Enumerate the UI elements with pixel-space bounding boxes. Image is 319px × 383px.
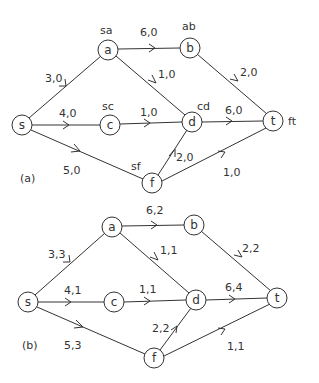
edge-label-f-d: 2,0 <box>176 151 194 164</box>
node-f: f <box>144 348 164 368</box>
diagram-caption-b: (b) <box>22 339 38 352</box>
edge-label-s-a: 3,3 <box>48 248 66 261</box>
svg-text:c: c <box>111 295 118 309</box>
edge-label-a-b: 6,2 <box>146 204 164 217</box>
arrow-icon <box>148 75 156 83</box>
node-tag-sf: sf <box>131 160 142 173</box>
edge-s-f <box>31 130 143 179</box>
edge-label-f-d: 2,2 <box>152 322 170 335</box>
svg-text:d: d <box>188 115 196 129</box>
edge-c-d <box>120 122 182 124</box>
edge-label-s-a: 3,0 <box>45 72 63 85</box>
svg-text:c: c <box>107 118 114 132</box>
flow-network-figure: s a b c d t f sa ab sc cd ft sf 3,0 4,0 … <box>0 0 319 383</box>
node-a: a <box>102 217 122 237</box>
diagram-b: s a b c d t f 3,3 4,1 5,3 6,2 1,1 1,1 2,… <box>18 204 287 368</box>
edge-label-b-t: 2,2 <box>242 242 260 255</box>
edge-label-b-t: 2,0 <box>240 66 258 79</box>
edge-label-c-d: 1,0 <box>140 106 158 119</box>
svg-text:s: s <box>19 118 25 132</box>
svg-text:t: t <box>271 114 276 128</box>
node-tag-sc: sc <box>102 100 114 113</box>
svg-text:b: b <box>186 41 194 55</box>
arrow-icon <box>226 117 232 125</box>
arrow-icon <box>230 74 238 81</box>
arrow-icon <box>150 252 158 260</box>
edge-d-t <box>206 298 267 300</box>
edge-label-s-c: 4,1 <box>64 284 82 297</box>
node-tag-ab: ab <box>182 20 196 33</box>
edge-label-a-b: 6,0 <box>140 26 158 39</box>
edge-label-a-d: 1,0 <box>158 68 176 81</box>
edge-label-f-t: 1,1 <box>227 340 245 353</box>
edge-a-b <box>118 48 180 49</box>
arrow-icon <box>234 250 242 257</box>
edge-s-f <box>37 307 145 354</box>
node-tag-ft: ft <box>288 115 297 128</box>
svg-text:a: a <box>104 43 111 57</box>
edge-label-f-t: 1,0 <box>223 166 241 179</box>
node-t: t <box>263 111 283 131</box>
node-t: t <box>267 288 287 308</box>
edge-c-d <box>124 300 186 302</box>
edge-label-d-t: 6,0 <box>225 104 243 117</box>
edge-label-a-d: 1,1 <box>160 244 178 257</box>
edge-f-t <box>164 304 270 356</box>
node-d: d <box>186 290 206 310</box>
node-tag-cd: cd <box>197 100 210 113</box>
node-tag-sa: sa <box>100 24 112 37</box>
node-s: s <box>12 115 32 135</box>
diagram-a: s a b c d t f sa ab sc cd ft sf 3,0 4,0 … <box>12 20 297 193</box>
node-a: a <box>98 40 118 60</box>
diagram-caption-a: (a) <box>20 172 35 185</box>
svg-text:a: a <box>108 220 115 234</box>
svg-text:b: b <box>190 218 198 232</box>
node-s: s <box>18 292 38 312</box>
edge-label-s-f: 5,3 <box>64 339 82 352</box>
svg-text:t: t <box>275 291 280 305</box>
node-c: c <box>104 292 124 312</box>
node-b: b <box>184 215 204 235</box>
node-f: f <box>142 173 162 193</box>
edge-label-d-t: 6,4 <box>225 281 243 294</box>
node-b: b <box>180 38 200 58</box>
svg-text:s: s <box>25 295 31 309</box>
edge-label-s-f: 5,0 <box>63 164 81 177</box>
edge-label-c-d: 1,1 <box>139 283 157 296</box>
edge-a-b <box>122 225 184 226</box>
node-d: d <box>182 112 202 132</box>
arrow-icon <box>171 326 177 333</box>
node-c: c <box>100 115 120 135</box>
svg-text:d: d <box>192 293 200 307</box>
edge-label-s-c: 4,0 <box>59 107 77 120</box>
